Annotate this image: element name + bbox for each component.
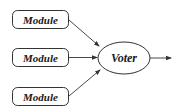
arrow-module3-to-voter xyxy=(69,70,100,96)
tmr-voter-diagram: Module Module Module Voter xyxy=(0,0,180,112)
voter-node: Voter xyxy=(98,42,150,74)
module-label: Module xyxy=(22,52,58,64)
voter-label: Voter xyxy=(111,51,137,65)
module-box-3: Module xyxy=(13,88,69,106)
module-label: Module xyxy=(22,91,58,103)
module-box-2: Module xyxy=(13,49,69,67)
module-box-1: Module xyxy=(13,11,69,29)
arrow-module1-to-voter xyxy=(69,20,99,46)
module-label: Module xyxy=(22,14,58,26)
